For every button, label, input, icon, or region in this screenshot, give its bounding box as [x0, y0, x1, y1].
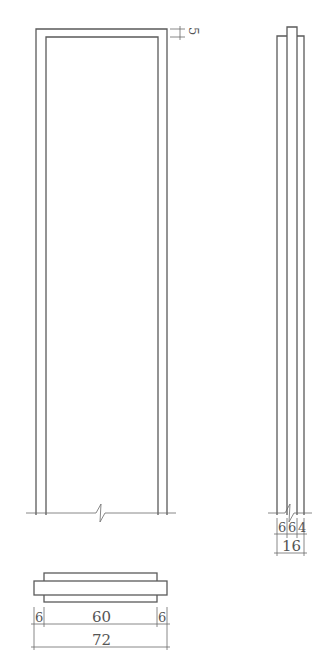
- side-dim-1: 6: [278, 520, 286, 535]
- plan-middle-bar: [34, 581, 167, 595]
- plan-dim-total: 72: [92, 631, 111, 649]
- frame-outer-outline: [36, 29, 167, 515]
- side-dim-total: 16: [282, 537, 301, 555]
- plan-dim-left: 6: [35, 610, 43, 625]
- plan-view: 6 60 6 72: [31, 573, 170, 650]
- top-dimension-label: 5: [186, 27, 201, 35]
- plan-dim-center: 60: [92, 608, 111, 626]
- front-elevation-view: 5: [26, 26, 201, 522]
- side-dim-3: 4: [298, 520, 306, 535]
- plan-dim-right: 6: [158, 610, 166, 625]
- frame-inner-outline: [46, 37, 158, 515]
- side-center-piece: [287, 27, 297, 515]
- door-frame-drawing: 5 6 6 4 16 6 60 6 72: [0, 0, 329, 651]
- break-line: [26, 504, 176, 522]
- side-section-view: 6 6 4 16: [268, 27, 312, 556]
- top-dimension: 5: [170, 26, 201, 40]
- side-dim-2: 6: [288, 520, 296, 535]
